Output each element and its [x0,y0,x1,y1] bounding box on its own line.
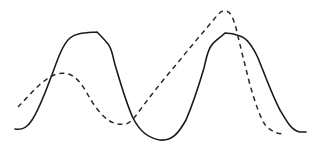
dashed-curve [18,11,285,134]
waveform-diagram [0,0,324,148]
solid-curve [15,32,306,140]
